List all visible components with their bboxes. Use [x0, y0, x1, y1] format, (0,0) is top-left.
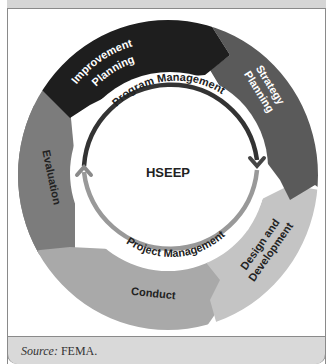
center-label-hseep: HSEEP — [146, 165, 190, 180]
source-label: Source: — [21, 344, 58, 358]
figure-footer: Source: FEMA. — [7, 336, 326, 364]
hseep-cycle-diagram: Program Management Project Management HS… — [0, 0, 336, 336]
source-note: Source: FEMA. — [21, 344, 97, 359]
source-value: FEMA. — [58, 344, 97, 358]
